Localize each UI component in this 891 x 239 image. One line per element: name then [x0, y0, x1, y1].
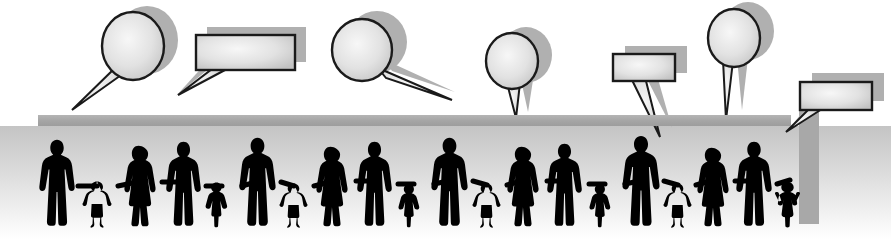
speech-bubble-round-2-body [332, 19, 392, 81]
illustration-canvas [0, 0, 891, 239]
speech-bubble-round-4-body [708, 9, 760, 67]
speech-bubble-round-3-body [486, 33, 538, 89]
speech-bubble-round-1-body [102, 12, 164, 80]
speech-bubble-rect-3-body [800, 82, 872, 110]
speech-bubble-rect-2-body [613, 54, 675, 81]
speech-bubble-rect-1-body [196, 35, 295, 70]
people-and-speech-bubbles-illustration [0, 0, 891, 239]
horizontal-divider-bar [38, 115, 791, 126]
